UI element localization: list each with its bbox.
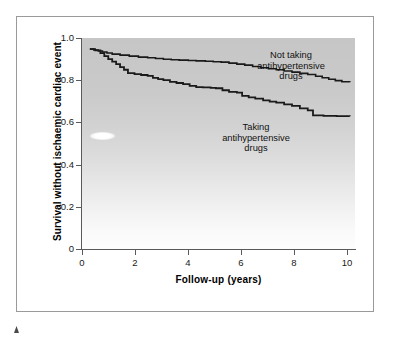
y-axis-title: Survival without ischaemic cardiac event	[52, 22, 63, 262]
x-tick-label-10: 10	[334, 258, 360, 268]
x-tick-label-0: 0	[69, 258, 95, 268]
y-tick-mark-04	[76, 165, 81, 166]
x-tick-label-2: 2	[122, 258, 148, 268]
x-tick-label-8: 8	[281, 258, 307, 268]
y-tick-mark-02	[76, 207, 81, 208]
x-tick-mark-4	[188, 250, 189, 255]
plot-area: Not taking antihypertensive drugs Taking…	[82, 38, 355, 249]
y-tick-mark-08	[76, 80, 81, 81]
y-tick-mark-06	[76, 122, 81, 123]
x-axis-title: Follow-up (years)	[82, 274, 355, 285]
curve-label-taking: Taking antihypertensive drugs	[200, 122, 312, 154]
figure-root: Not taking antihypertensive drugs Taking…	[0, 0, 399, 339]
x-tick-mark-8	[294, 250, 295, 255]
x-tick-mark-6	[241, 250, 242, 255]
curve-label-not-taking: Not taking antihypertensive drugs	[235, 50, 347, 82]
x-axis-line	[81, 249, 356, 250]
x-tick-mark-0	[82, 250, 83, 255]
y-tick-mark-1	[76, 38, 81, 39]
x-tick-label-4: 4	[175, 258, 201, 268]
corner-marker-artifact	[14, 326, 19, 333]
x-tick-label-6: 6	[228, 258, 254, 268]
x-tick-mark-10	[347, 250, 348, 255]
y-axis-line	[81, 38, 82, 250]
x-tick-mark-2	[135, 250, 136, 255]
y-tick-mark-0	[76, 249, 81, 250]
